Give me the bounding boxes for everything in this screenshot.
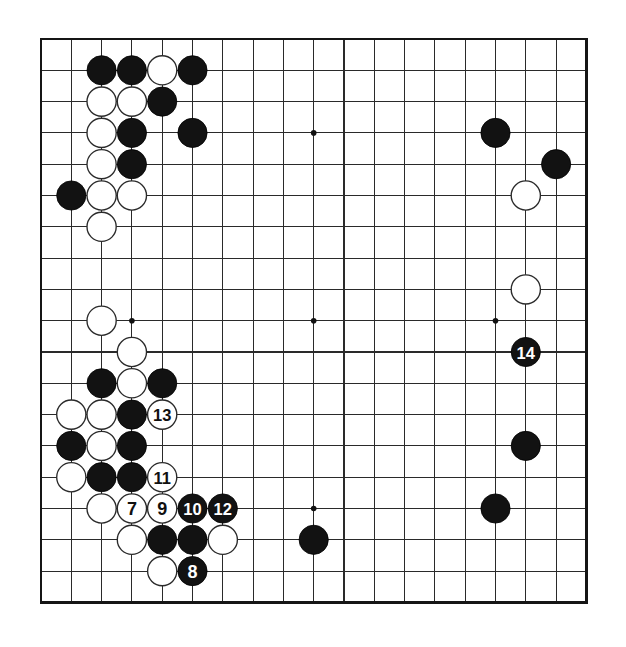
black-stone <box>481 118 510 147</box>
white-stone <box>57 463 86 492</box>
stone-black-14[interactable]: 14 <box>511 337 540 366</box>
stone-black[interactable] <box>148 87 177 116</box>
black-stone <box>148 525 177 554</box>
white-stone <box>57 400 86 429</box>
stone-black[interactable] <box>117 150 146 179</box>
stone-white[interactable] <box>87 150 116 179</box>
black-stone <box>542 150 571 179</box>
stone-white[interactable] <box>117 369 146 398</box>
stone-white[interactable] <box>148 557 177 586</box>
stone-white[interactable] <box>117 87 146 116</box>
stone-white[interactable] <box>57 400 86 429</box>
stone-white[interactable] <box>87 431 116 460</box>
white-stone <box>148 557 177 586</box>
stone-white[interactable] <box>117 337 146 366</box>
stone-white-9[interactable]: 9 <box>148 494 177 523</box>
white-stone <box>117 181 146 210</box>
stone-white-7[interactable]: 7 <box>117 494 146 523</box>
white-stone <box>87 494 116 523</box>
stone-black[interactable] <box>117 400 146 429</box>
black-stone <box>117 431 146 460</box>
black-stone <box>57 431 86 460</box>
stone-black[interactable] <box>178 525 207 554</box>
stone-black[interactable] <box>481 494 510 523</box>
stone-black[interactable] <box>511 431 540 460</box>
stone-black-12[interactable]: 12 <box>208 494 237 523</box>
white-stone <box>87 400 116 429</box>
stone-black[interactable] <box>87 463 116 492</box>
stone-white[interactable] <box>208 525 237 554</box>
black-stone <box>117 150 146 179</box>
stone-black[interactable] <box>57 431 86 460</box>
black-stone <box>511 337 540 366</box>
white-stone <box>87 306 116 335</box>
black-stone <box>117 463 146 492</box>
white-stone <box>87 431 116 460</box>
stone-black-10[interactable]: 10 <box>178 494 207 523</box>
stone-black[interactable] <box>178 56 207 85</box>
stone-white[interactable] <box>511 275 540 304</box>
black-stone <box>148 87 177 116</box>
white-stone <box>117 369 146 398</box>
white-stone <box>511 275 540 304</box>
white-stone <box>87 87 116 116</box>
white-stone <box>148 400 177 429</box>
black-stone <box>178 56 207 85</box>
stone-white[interactable] <box>87 87 116 116</box>
white-stone <box>87 181 116 210</box>
black-stone <box>178 118 207 147</box>
stone-black[interactable] <box>481 118 510 147</box>
white-stone <box>148 463 177 492</box>
stone-white[interactable] <box>87 181 116 210</box>
black-stone <box>117 56 146 85</box>
black-stone <box>87 463 116 492</box>
stone-white[interactable] <box>511 181 540 210</box>
white-stone <box>117 494 146 523</box>
stone-black[interactable] <box>117 118 146 147</box>
stone-black[interactable] <box>299 525 328 554</box>
go-board[interactable]: 1413117910128 <box>0 0 626 647</box>
stone-white-13[interactable]: 13 <box>148 400 177 429</box>
stone-white[interactable] <box>87 400 116 429</box>
white-stone <box>87 212 116 241</box>
black-stone <box>87 56 116 85</box>
stone-white[interactable] <box>148 56 177 85</box>
white-stone <box>117 337 146 366</box>
black-stone <box>511 431 540 460</box>
white-stone <box>87 150 116 179</box>
white-stone <box>511 181 540 210</box>
stone-black[interactable] <box>148 525 177 554</box>
black-stone <box>148 369 177 398</box>
stone-black[interactable] <box>117 463 146 492</box>
black-stone <box>208 494 237 523</box>
stone-black[interactable] <box>117 431 146 460</box>
white-stone <box>208 525 237 554</box>
black-stone <box>178 557 207 586</box>
black-stone <box>178 525 207 554</box>
star-point <box>493 318 499 324</box>
black-stone <box>299 525 328 554</box>
stone-black[interactable] <box>57 181 86 210</box>
stone-black[interactable] <box>542 150 571 179</box>
stone-white[interactable] <box>117 181 146 210</box>
stone-black[interactable] <box>117 56 146 85</box>
black-stone <box>117 400 146 429</box>
stone-black[interactable] <box>87 56 116 85</box>
stone-white-11[interactable]: 11 <box>148 463 177 492</box>
stone-black[interactable] <box>87 369 116 398</box>
stone-white[interactable] <box>87 118 116 147</box>
black-stone <box>481 494 510 523</box>
stone-black-8[interactable]: 8 <box>178 557 207 586</box>
stone-white[interactable] <box>87 212 116 241</box>
stone-black[interactable] <box>178 118 207 147</box>
stone-white[interactable] <box>57 463 86 492</box>
black-stone <box>87 369 116 398</box>
star-point <box>311 506 317 512</box>
stone-white[interactable] <box>87 306 116 335</box>
stone-white[interactable] <box>87 494 116 523</box>
star-point <box>311 318 317 324</box>
stone-white[interactable] <box>117 525 146 554</box>
stone-black[interactable] <box>148 369 177 398</box>
white-stone <box>87 118 116 147</box>
white-stone <box>117 87 146 116</box>
